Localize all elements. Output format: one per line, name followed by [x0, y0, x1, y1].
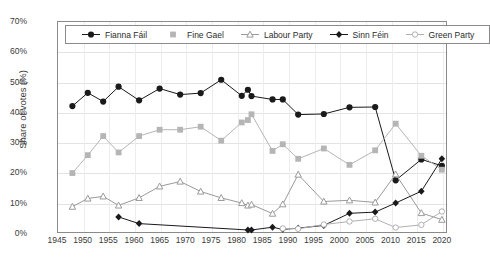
data-point: [197, 188, 203, 194]
square-filled-icon: [163, 29, 183, 40]
data-point: [347, 219, 352, 224]
legend-item-fianna-fáil[interactable]: Fianna Fáil: [81, 29, 147, 40]
series-fine-gael: [69, 111, 444, 176]
data-point: [100, 98, 106, 104]
data-point: [157, 85, 163, 91]
data-point: [177, 178, 183, 184]
data-point: [115, 213, 122, 220]
data-point: [136, 97, 142, 103]
data-point: [321, 111, 327, 117]
data-point: [418, 153, 424, 159]
data-point: [295, 111, 301, 117]
data-point: [321, 222, 326, 227]
data-point: [439, 155, 446, 162]
series-sinn-féin: [115, 155, 445, 233]
data-point: [270, 148, 276, 154]
data-point: [321, 146, 327, 152]
legend-item-labour-party[interactable]: Labour Party: [240, 29, 313, 40]
data-point: [218, 77, 224, 83]
series-line: [72, 114, 441, 173]
data-point: [248, 226, 255, 233]
circle-open-icon: [405, 29, 425, 40]
data-point: [269, 96, 275, 102]
data-point: [393, 225, 398, 230]
chart-legend: Fianna FáilFine GaelLabour PartySinn Féi…: [65, 25, 490, 44]
data-point: [69, 103, 75, 109]
data-point: [372, 147, 378, 153]
data-point: [372, 104, 378, 110]
data-point: [198, 124, 204, 130]
data-point: [439, 167, 445, 173]
diamond-filled-icon: [329, 29, 349, 40]
data-point: [249, 111, 255, 117]
circle-filled-icon: [81, 29, 101, 40]
data-point: [136, 195, 142, 201]
data-point: [392, 200, 399, 207]
data-point: [295, 226, 300, 231]
legend-item-sinn-féin[interactable]: Sinn Féin: [329, 29, 389, 40]
legend-label: Fine Gael: [187, 30, 224, 40]
legend-label: Labour Party: [264, 30, 313, 40]
data-point: [115, 84, 121, 90]
triangle-open-icon: [240, 29, 260, 40]
legend-label: Sinn Féin: [353, 30, 389, 40]
legend-item-fine-gael[interactable]: Fine Gael: [163, 29, 224, 40]
data-point: [419, 222, 424, 227]
data-point: [136, 220, 143, 227]
data-point: [218, 138, 224, 144]
series-line: [283, 211, 442, 228]
data-point: [280, 226, 285, 231]
series-fianna-fáil: [69, 77, 445, 184]
data-point: [116, 150, 122, 156]
data-point: [295, 156, 301, 162]
series-line: [72, 174, 441, 219]
data-point: [346, 210, 353, 217]
series-line: [72, 80, 441, 181]
data-point: [245, 117, 251, 123]
data-point: [372, 209, 379, 216]
data-point: [280, 201, 286, 207]
data-point: [85, 152, 91, 158]
data-point: [346, 104, 352, 110]
data-point: [69, 170, 75, 176]
data-point: [418, 188, 425, 195]
data-point: [245, 87, 251, 93]
data-point: [69, 203, 75, 209]
data-point: [269, 224, 276, 231]
data-point: [347, 162, 353, 168]
data-point: [239, 93, 245, 99]
legend-label: Green Party: [429, 30, 475, 40]
data-point: [295, 171, 301, 177]
series-line: [119, 159, 442, 230]
data-point: [157, 127, 163, 133]
data-point: [100, 133, 106, 139]
data-point: [439, 209, 444, 214]
data-point: [248, 93, 254, 99]
data-point: [280, 96, 286, 102]
data-point: [177, 91, 183, 97]
data-point: [198, 90, 204, 96]
series-labour-party: [69, 171, 445, 222]
legend-label: Fianna Fáil: [105, 30, 147, 40]
data-point: [136, 133, 142, 139]
data-point: [177, 127, 183, 133]
data-point: [85, 90, 91, 96]
legend-item-green-party[interactable]: Green Party: [405, 29, 475, 40]
data-point: [393, 121, 399, 127]
data-point: [100, 193, 106, 199]
data-point: [372, 216, 377, 221]
data-point: [418, 210, 424, 216]
data-point: [280, 141, 286, 147]
data-point: [239, 120, 245, 126]
